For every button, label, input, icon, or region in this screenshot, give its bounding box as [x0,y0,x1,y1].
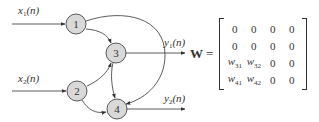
matrix-row: w31 w32 0 0 [225,54,301,71]
input-label-x2: x2(n) [17,72,40,86]
matrix-cell: 0 [263,54,282,71]
node-3: 3 [106,43,126,63]
output-label-y2: y2(n) [163,92,186,106]
edge-2-to-4 [82,100,106,113]
matrix-cell: 0 [225,37,244,54]
matrix-label: W= [190,46,213,62]
svg-text:1: 1 [73,18,79,30]
matrix-cell: 0 [282,54,301,71]
node-4: 4 [107,99,127,119]
edge-1-to-4 [86,16,165,104]
matrix-row: 0 0 0 0 [225,20,301,37]
matrix-body: 0 0 0 0 0 0 0 0 w31 w32 0 0 w41 w42 0 [225,20,301,88]
svg-text:2: 2 [74,85,80,97]
matrix-cell: 0 [244,20,263,37]
svg-text:3: 3 [113,47,119,59]
matrix-cell: 0 [263,37,282,54]
neural-network-diagram: x1(n) x2(n) y1(n) y2(n) 1 2 3 4 [0,0,190,122]
matrix-cell-w31: w31 [225,54,244,71]
matrix-cell: 0 [263,20,282,37]
edge-1-to-3 [86,29,111,43]
matrix-cell: 0 [225,20,244,37]
matrix-cell: 0 [244,37,263,54]
matrix-cell-w41: w41 [225,71,244,88]
matrix-cell: 0 [263,71,282,88]
node-1: 1 [66,14,86,34]
matrix-row: w41 w42 0 0 [225,71,301,88]
edge-2-to-3 [87,63,111,86]
matrix-cell-w32: w32 [244,54,263,71]
node-2: 2 [67,81,87,101]
matrix-row: 0 0 0 0 [225,37,301,54]
output-label-y1: y1(n) [163,36,186,50]
matrix-cell: 0 [282,20,301,37]
svg-text:4: 4 [114,103,120,115]
input-label-x1: x1(n) [17,4,40,18]
matrix-brackets: 0 0 0 0 0 0 0 0 w31 w32 0 0 w41 w42 0 [219,18,307,90]
matrix-cell: 0 [282,71,301,88]
matrix-cell-w42: w42 [244,71,263,88]
matrix-cell: 0 [282,37,301,54]
weight-matrix: W= 0 0 0 0 0 0 0 0 w31 w32 0 0 w41 [190,18,307,90]
edge-3-to-4 [112,63,115,98]
